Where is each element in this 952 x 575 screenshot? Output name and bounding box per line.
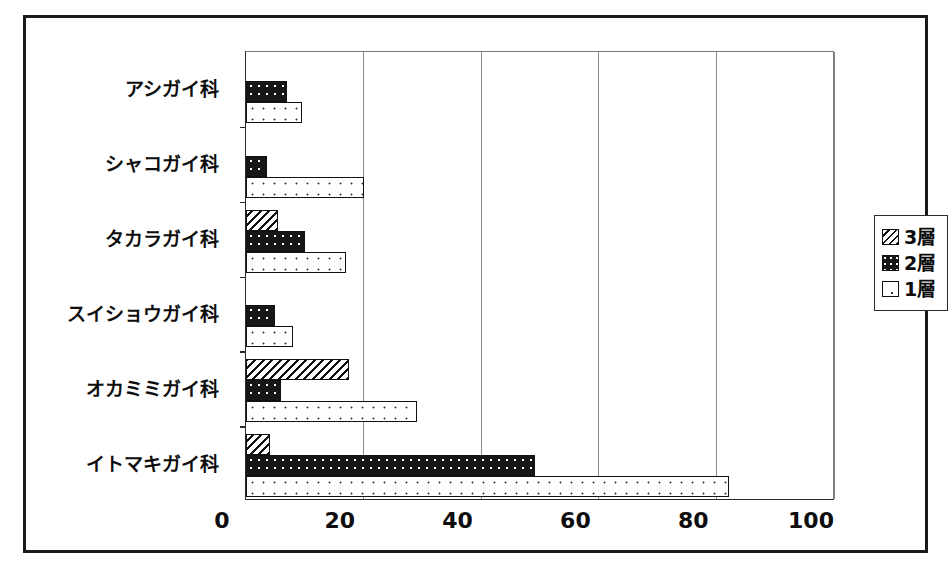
- legend-item-1層: 1層: [882, 276, 941, 302]
- y-axis-tick: [240, 202, 246, 204]
- y-axis-tick: [240, 351, 246, 353]
- gridline: [834, 52, 835, 499]
- x-tick-label: 80: [678, 508, 709, 533]
- y-axis-tick: [240, 426, 246, 428]
- y-axis-category-label: アシガイ科: [26, 74, 232, 101]
- x-tick-label: 0: [214, 508, 229, 533]
- bar-1層-アシガイ科: [246, 102, 302, 123]
- bar-2層-オカミミガイ科: [246, 380, 281, 401]
- legend-swatch-icon: [882, 255, 899, 271]
- bar-3層-オカミミガイ科: [246, 359, 349, 380]
- legend-label: 3層: [904, 228, 936, 247]
- x-tick-label: 100: [788, 508, 834, 533]
- bar-2層-スイショウガイ科: [246, 305, 275, 326]
- y-axis-category-label: オカミミガイ科: [26, 374, 232, 401]
- gridline: [716, 52, 717, 499]
- figure-frame: アシガイ科シャコガイ科タカラガイ科スイショウガイ科オカミミガイ科イトマキガイ科 …: [23, 15, 928, 553]
- legend-item-2層: 2層: [882, 250, 941, 276]
- y-axis-tick: [240, 277, 246, 279]
- bar-3層-タカラガイ科: [246, 210, 278, 231]
- plot-area: [245, 51, 834, 500]
- gridline: [363, 52, 364, 499]
- bar-2層-イトマキガイ科: [246, 455, 535, 476]
- bar-1層-タカラガイ科: [246, 252, 346, 273]
- legend-label: 1層: [904, 280, 936, 299]
- legend-swatch-icon: [882, 229, 899, 245]
- chart-legend: 3層2層1層: [874, 215, 948, 311]
- y-axis-category-label: タカラガイ科: [26, 224, 232, 251]
- legend-swatch-icon: [882, 281, 899, 297]
- bar-1層-スイショウガイ科: [246, 326, 293, 347]
- x-tick-label: 40: [442, 508, 473, 533]
- bar-3層-イトマキガイ科: [246, 434, 270, 455]
- gridline: [598, 52, 599, 499]
- x-tick-label: 20: [324, 508, 355, 533]
- bar-2層-タカラガイ科: [246, 231, 305, 252]
- bar-1層-オカミミガイ科: [246, 401, 417, 422]
- y-axis-tick: [240, 127, 246, 129]
- gridline: [481, 52, 482, 499]
- y-axis-category-label: スイショウガイ科: [26, 299, 232, 326]
- bar-2層-シャコガイ科: [246, 156, 267, 177]
- x-tick-label: 60: [560, 508, 591, 533]
- chart-figure: アシガイ科シャコガイ科タカラガイ科スイショウガイ科オカミミガイ科イトマキガイ科 …: [0, 0, 952, 575]
- y-axis-category-label: シャコガイ科: [26, 149, 232, 176]
- bar-1層-シャコガイ科: [246, 177, 364, 198]
- bar-2層-アシガイ科: [246, 81, 287, 102]
- y-axis-category-label: イトマキガイ科: [26, 449, 232, 476]
- bar-1層-イトマキガイ科: [246, 476, 729, 497]
- legend-label: 2層: [904, 254, 936, 273]
- legend-item-3層: 3層: [882, 224, 941, 250]
